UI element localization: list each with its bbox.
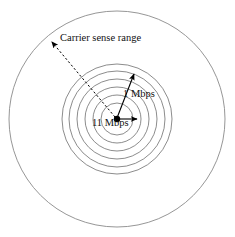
rate-11mbps-label: 11 Mbps <box>92 118 129 129</box>
carrier-sense-arrow <box>52 42 115 117</box>
rate-1mbps-label: 1 Mbps <box>123 89 155 100</box>
figure-root: Carrier sense range 1 Mbps 11 Mbps <box>0 0 235 237</box>
carrier-sense-range-label: Carrier sense range <box>60 33 141 44</box>
